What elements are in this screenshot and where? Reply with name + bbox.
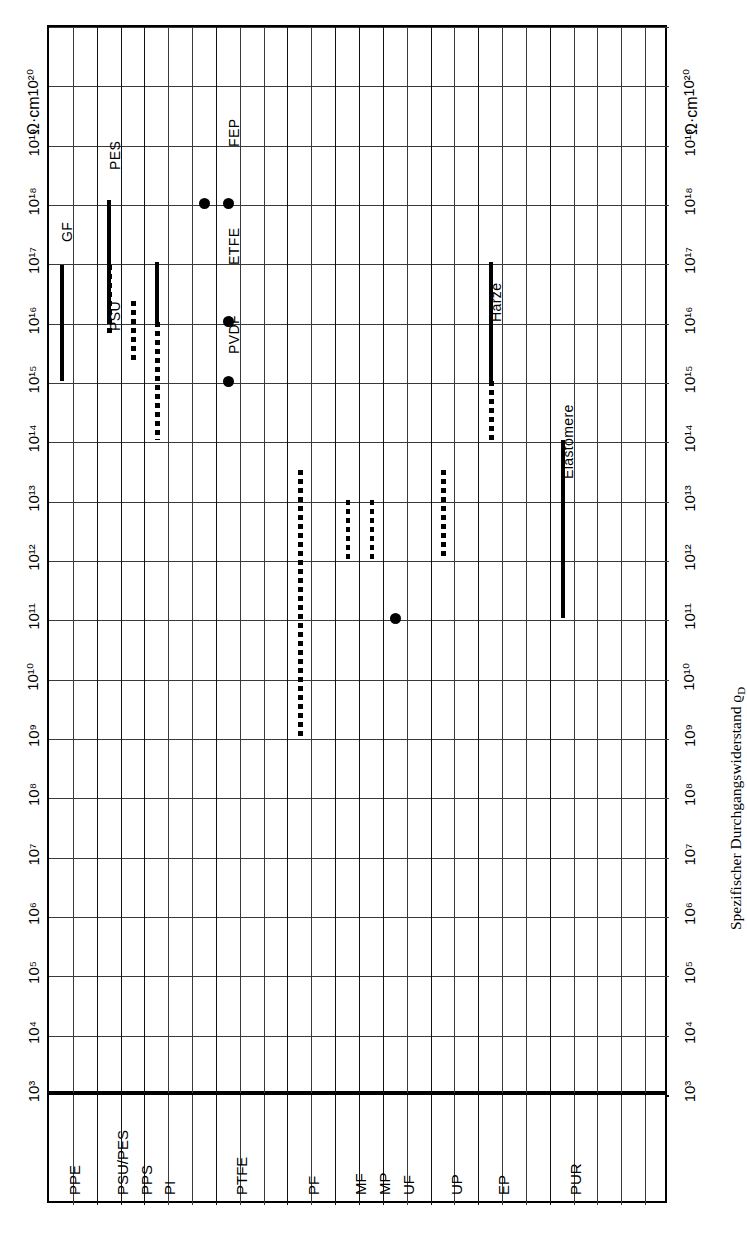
data-bar-pps	[131, 301, 136, 360]
band-column-separator-9	[264, 1095, 265, 1205]
annotation-gf: GF	[59, 221, 75, 241]
category-label-pi: PI	[161, 1181, 178, 1195]
band-column-separator-20	[526, 1095, 527, 1205]
annotation-etfe: ETFE	[226, 228, 242, 265]
axis-tick-right-1e10: 10¹⁰	[680, 642, 698, 712]
column-separator-9	[264, 27, 265, 1095]
annotation-psu: PSU	[107, 301, 123, 331]
column-separator-14	[383, 27, 384, 1095]
annotation-fep: FEP	[226, 118, 242, 146]
caption-subscript: D	[735, 687, 747, 695]
column-separator-19	[502, 27, 503, 1095]
chart-plot-area	[47, 25, 667, 1093]
column-separator-23	[597, 27, 598, 1095]
column-separator-18	[478, 27, 479, 1095]
data-bar-harze-dash	[489, 381, 494, 440]
column-separator-3	[121, 27, 122, 1095]
data-bar-mf	[346, 500, 351, 559]
band-column-separator-16	[431, 1095, 432, 1205]
column-separator-12	[335, 27, 336, 1095]
column-separator-22	[574, 27, 575, 1095]
axis-tick-right-1e16: 10¹⁶	[681, 285, 698, 355]
axis-tick-left-1e13: 10¹³	[25, 463, 42, 533]
chart-caption: Spezifischer Durchgangswiderstand ϱD	[727, 687, 747, 930]
column-separator-1	[73, 27, 74, 1095]
data-point-ptfe	[199, 198, 210, 209]
axis-tick-left-1e16: 10¹⁶	[25, 285, 42, 355]
annotation-pes: PES	[107, 141, 123, 170]
data-bar-mp	[370, 500, 375, 559]
category-label-mp: MP	[376, 1173, 393, 1196]
band-column-separator-18	[478, 1095, 479, 1205]
data-bar-pes	[107, 200, 111, 265]
column-separator-21	[550, 27, 551, 1095]
column-separator-4	[144, 27, 145, 1095]
annotation-elastomere: Elastomere	[560, 404, 576, 479]
axis-tick-left-1e20: 10²⁰	[24, 48, 42, 118]
category-label-ppe: PPE	[66, 1165, 83, 1195]
column-separator-11	[311, 27, 312, 1095]
caption-text: Spezifischer Durchgangswiderstand ϱ	[727, 695, 744, 930]
column-separator-15	[407, 27, 408, 1095]
category-label-pf: PF	[305, 1176, 322, 1195]
data-point-fep	[223, 198, 234, 209]
column-separator-13	[359, 27, 360, 1095]
data-bar-gf	[60, 265, 64, 381]
data-bar-pf	[298, 470, 303, 737]
data-point-uf	[390, 613, 401, 624]
axis-tick-right-1e20: 10²⁰	[680, 48, 698, 118]
band-column-separator-10	[287, 1095, 288, 1205]
category-label-pur: PUR	[567, 1163, 584, 1195]
column-separator-8	[240, 27, 241, 1095]
column-separator-25	[645, 27, 646, 1095]
band-column-separator-2	[97, 1095, 98, 1205]
axis-tick-right-1e4: 10⁴	[681, 997, 698, 1067]
category-label-up: UP	[448, 1174, 465, 1195]
column-separator-20	[526, 27, 527, 1095]
category-label-mf: MF	[352, 1173, 369, 1195]
annotation-harze: Harze	[488, 282, 504, 321]
axis-tick-right-1e7: 10⁷	[681, 819, 698, 889]
axis-tick-right-1e13: 10¹³	[681, 463, 698, 533]
band-column-separator-25	[645, 1095, 646, 1205]
data-point-pvdf	[223, 376, 234, 387]
column-separator-24	[621, 27, 622, 1095]
column-separator-2	[97, 27, 98, 1095]
band-column-separator-6	[192, 1095, 193, 1205]
band-column-separator-21	[550, 1095, 551, 1205]
column-separator-6	[192, 27, 193, 1095]
category-label-pps: PPS	[138, 1165, 155, 1195]
category-label-uf: UF	[400, 1175, 417, 1195]
column-separator-16	[431, 27, 432, 1095]
axis-tick-left-1e7: 10⁷	[25, 819, 42, 889]
axis-tick-left-1e10: 10¹⁰	[24, 642, 42, 712]
axis-tick-left-1e4: 10⁴	[25, 997, 42, 1067]
data-bar-pi-dash	[155, 322, 160, 441]
band-column-separator-7	[216, 1095, 217, 1205]
column-separator-17	[454, 27, 455, 1095]
column-separator-5	[168, 27, 169, 1095]
data-bar-up	[441, 470, 446, 559]
band-column-separator-23	[597, 1095, 598, 1205]
column-separator-10	[287, 27, 288, 1095]
data-bar-pi-solid	[155, 262, 159, 321]
category-label-ep: EP	[495, 1175, 512, 1195]
annotation-pvdf: PVDF	[226, 315, 242, 354]
band-column-separator-12	[335, 1095, 336, 1205]
column-separator-7	[216, 27, 217, 1095]
band-column-separator-24	[621, 1095, 622, 1205]
category-label-ptfe: PTFE	[233, 1157, 250, 1195]
category-label-psu-pes: PSU/PES	[114, 1130, 131, 1195]
